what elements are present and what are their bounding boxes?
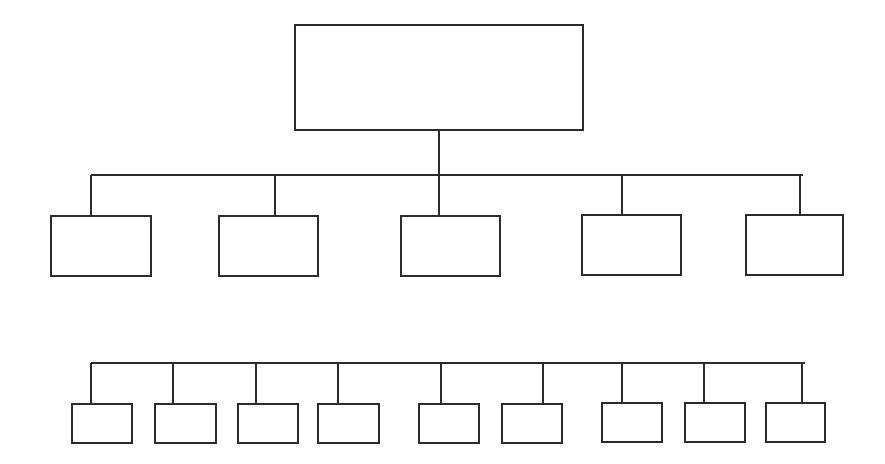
level2-bus-line [91,362,805,364]
root-connector [438,131,440,176]
level2-box [237,403,299,444]
level2-connector [90,363,92,403]
level1-connector [799,175,801,214]
level2-connector [621,363,623,402]
level2-box [501,403,563,444]
level1-box [400,215,501,277]
level1-box [218,215,319,277]
root-box [294,24,584,131]
level2-connector [801,363,803,402]
level1-connector [438,175,440,215]
level2-connector [703,363,705,402]
level2-connector [542,363,544,403]
level1-connector [90,175,92,215]
level1-box [581,214,682,276]
level1-box [50,215,152,277]
level2-box [684,402,746,443]
level2-connector [172,363,174,403]
level2-box [154,403,217,444]
level2-connector [440,363,442,403]
level1-connector [621,175,623,214]
level2-connector [337,363,339,403]
level2-connector [255,363,257,403]
level2-box [317,403,380,444]
level2-box [601,402,663,443]
level2-box [765,402,826,443]
level1-bus-line [91,174,803,176]
level1-box [745,214,844,276]
level2-box [71,403,133,444]
level2-box [418,403,480,444]
level1-connector [274,175,276,215]
